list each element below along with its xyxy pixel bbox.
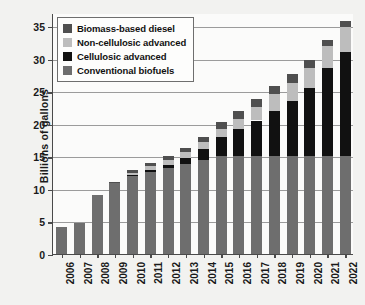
x-axis-tick [310,254,311,258]
x-axis-tick [345,254,346,258]
bar-segment [269,156,280,254]
bar-segment [145,172,156,254]
bar-segment [304,88,315,156]
bar-stack [269,13,280,254]
legend-item: Conventional biofuels [63,63,186,77]
x-axis-tick-label: 2013 [189,262,200,284]
bar-segment [304,68,315,88]
bar-segment [163,168,174,254]
y-axis-tick-label: 10 [33,184,45,196]
bar-segment [216,137,227,157]
x-axis-tick [186,254,187,258]
y-axis-tick-label: 35 [33,21,45,33]
bar-segment [216,129,227,137]
x-axis-tick [115,254,116,258]
x-axis-tick-label: 2021 [330,262,341,284]
bar-segment [233,156,244,254]
bar-stack [251,13,262,254]
bar-stack [216,13,227,254]
bar-segment [304,156,315,254]
bar-segment [163,156,174,159]
bar-segment [287,156,298,254]
legend-item: Cellulosic advanced [63,49,186,63]
bar-segment [233,111,244,119]
bar-segment [92,195,103,254]
x-axis-tick [150,254,151,258]
chart-legend: Biomass-based dieselNon-cellulosic advan… [57,17,194,82]
y-axis-tick-label: 20 [33,119,45,131]
x-axis-tick-label: 2007 [83,262,94,284]
legend-swatch-icon [63,52,72,61]
bar-segment [287,101,298,156]
x-axis-tick-label: 2008 [100,262,111,284]
legend-swatch-icon [63,66,72,75]
bar-segment [180,148,191,152]
bar-segment [127,176,138,254]
bar-segment [145,166,156,170]
bar-segment [216,122,227,129]
bar-stack [198,13,209,254]
y-axis-tick-label: 25 [33,86,45,98]
bar-segment [233,129,244,157]
bar-segment [198,160,209,254]
bar-segment [251,99,262,107]
bar-segment [322,68,333,156]
y-axis-tick-label: 30 [33,54,45,66]
bar-segment [269,86,280,94]
bar-segment [233,119,244,129]
x-axis-tick [327,254,328,258]
bar-segment [340,52,351,156]
legend-item: Biomass-based diesel [63,21,186,35]
bar-segment [127,175,138,176]
bar-segment [109,183,120,254]
bar-segment [251,156,262,254]
legend-item-label: Biomass-based diesel [77,23,175,34]
x-axis-tick [97,254,98,258]
x-axis-tick-label: 2009 [118,262,129,284]
y-axis-tick [48,255,53,256]
legend-item-label: Non-cellulosic advanced [77,37,186,48]
legend-item: Non-cellulosic advanced [63,35,186,49]
biofuel-volumes-stacked-bar-chart: Billions of gallons 05101520253035 20062… [0,0,365,305]
x-axis-tick [168,254,169,258]
legend-swatch-icon [63,38,72,47]
y-axis-title: Billions of gallons [38,46,50,226]
x-axis-tick [204,254,205,258]
bar-segment [340,21,351,28]
y-axis-tick-label: 5 [39,216,45,228]
bar-segment [109,182,120,183]
x-axis-tick-label: 2012 [171,262,182,284]
x-axis-tick [257,254,258,258]
x-axis-tick-label: 2017 [260,262,271,284]
bar-segment [127,170,138,173]
bar-segment [198,142,209,149]
bar-segment [198,149,209,160]
bar-segment [127,173,138,175]
bar-stack [322,13,333,254]
legend-item-label: Cellulosic advanced [77,51,166,62]
bar-segment [322,40,333,46]
x-axis-tick-label: 2019 [295,262,306,284]
y-axis-tick-label: 0 [39,249,45,261]
bar-segment [251,107,262,120]
bar-segment [340,156,351,254]
x-axis-tick-label: 2020 [313,262,324,284]
x-axis-tick [221,254,222,258]
bar-segment [163,165,174,168]
bar-stack [233,13,244,254]
bar-stack [340,13,351,254]
x-axis-tick [239,254,240,258]
bar-segment [287,83,298,101]
x-axis-tick-label: 2010 [136,262,147,284]
x-axis-tick [292,254,293,258]
bar-segment [216,156,227,254]
bar-segment [251,121,262,157]
bar-segment [180,152,191,158]
x-axis-tick-label: 2022 [348,262,359,284]
x-axis-tick-label: 2011 [153,262,164,284]
bar-segment [163,160,174,165]
bar-segment [74,223,85,254]
bar-segment [340,27,351,52]
bar-segment [198,137,209,142]
x-axis-tick [274,254,275,258]
